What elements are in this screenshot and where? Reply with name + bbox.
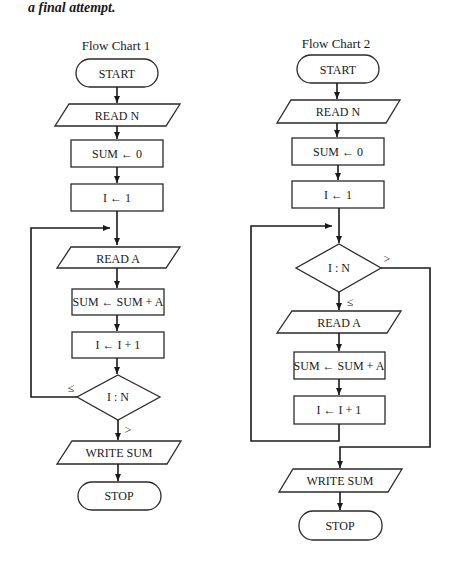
fc2-decision: I : N xyxy=(296,244,381,292)
fc2-i-init-process: I ← 1 xyxy=(292,181,384,208)
fc2-read-n-label: READ N xyxy=(316,105,361,119)
fc1-i-inc-label: I ← I + 1 xyxy=(96,338,141,352)
fc1-loop-condition-label: ≤ xyxy=(68,381,75,395)
fc1-decision: I : N xyxy=(77,375,160,420)
fc2-read-a-label: READ A xyxy=(317,316,361,330)
fc1-start-label: START xyxy=(99,67,136,81)
fc2-sum-add-process: SUM ← SUM + A xyxy=(294,352,385,379)
fc1-i-init-label: I ← 1 xyxy=(103,191,131,205)
fc2-continue-condition-label: ≤ xyxy=(347,295,354,309)
fc1-write-sum-label: WRITE SUM xyxy=(86,446,153,460)
fc1-start-terminal: START xyxy=(76,59,158,87)
fc2-start-label: START xyxy=(320,63,357,77)
fc1-read-n-io: READ N xyxy=(55,104,180,126)
fc2-i-init-label: I ← 1 xyxy=(324,188,352,202)
fc2-read-n-io: READ N xyxy=(277,100,400,123)
flowchart-1-title: Flow Chart 1 xyxy=(82,38,151,53)
fc2-read-a-io: READ A xyxy=(277,311,401,333)
fc1-read-a-label: READ A xyxy=(96,252,140,266)
fc2-start-terminal: START xyxy=(297,55,379,83)
fc2-stop-terminal: STOP xyxy=(299,511,382,540)
fc1-stop-terminal: STOP xyxy=(78,482,161,510)
fc1-sum-add-label: SUM ← SUM + A xyxy=(73,295,164,309)
fc1-sum-init-label: SUM ← 0 xyxy=(92,147,142,161)
fc1-stop-label: STOP xyxy=(104,489,133,503)
fc2-write-sum-io: WRITE SUM xyxy=(279,469,402,492)
flowcharts-canvas: Flow Chart 1 START READ N SUM ← 0 I ← 1 … xyxy=(0,0,470,562)
fc1-write-sum-io: WRITE SUM xyxy=(57,441,181,464)
fc2-exit-condition-label: > xyxy=(384,252,391,266)
flowchart-2-title: Flow Chart 2 xyxy=(302,36,371,51)
fc1-exit-condition-label: > xyxy=(125,423,132,437)
fc2-stop-label: STOP xyxy=(325,519,354,533)
flowchart-1: Flow Chart 1 START READ N SUM ← 0 I ← 1 … xyxy=(31,38,181,510)
fc2-i-inc-label: I ← I + 1 xyxy=(317,403,362,417)
fc1-read-a-io: READ A xyxy=(57,247,180,268)
fc2-sum-add-label: SUM ← SUM + A xyxy=(294,359,385,373)
fc2-sum-init-label: SUM ← 0 xyxy=(313,145,363,159)
fc2-i-inc-process: I ← I + 1 xyxy=(294,396,385,424)
fc2-decision-label: I : N xyxy=(328,261,350,275)
fc1-decision-label: I : N xyxy=(107,390,129,404)
fc2-write-sum-label: WRITE SUM xyxy=(307,474,374,488)
fc1-i-inc-process: I ← I + 1 xyxy=(72,332,164,358)
fc1-i-init-process: I ← 1 xyxy=(71,184,163,211)
fc2-sum-init-process: SUM ← 0 xyxy=(292,138,384,165)
fc1-sum-init-process: SUM ← 0 xyxy=(71,140,163,167)
fc1-read-n-label: READ N xyxy=(95,109,140,123)
fc1-sum-add-process: SUM ← SUM + A xyxy=(72,289,164,315)
flowchart-2: Flow Chart 2 START READ N SUM ← 0 I ← 1 … xyxy=(251,36,430,540)
